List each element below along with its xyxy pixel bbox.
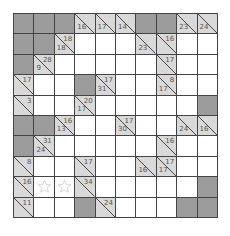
clue-cell: 2017 xyxy=(75,96,94,115)
down-sum: 30 xyxy=(118,126,127,133)
entry-cell[interactable] xyxy=(34,177,53,196)
entry-cell[interactable] xyxy=(55,198,74,217)
entry-cell[interactable] xyxy=(136,96,155,115)
entry-cell[interactable] xyxy=(177,75,196,94)
across-sum: 24 xyxy=(104,200,113,207)
down-sum: 24 xyxy=(200,24,209,31)
down-sum: 17 xyxy=(159,86,168,93)
entry-cell[interactable] xyxy=(136,136,155,155)
clue-cell: 1818 xyxy=(55,34,74,53)
entry-cell[interactable] xyxy=(116,96,135,115)
entry-cell[interactable] xyxy=(96,177,115,196)
entry-cell[interactable] xyxy=(55,96,74,115)
entry-cell[interactable] xyxy=(55,55,74,74)
entry-cell[interactable] xyxy=(34,157,53,176)
down-sum: 31 xyxy=(98,86,107,93)
entry-cell[interactable] xyxy=(198,136,217,155)
entry-cell[interactable] xyxy=(198,157,217,176)
across-sum: 8 xyxy=(170,77,174,84)
entry-cell[interactable] xyxy=(116,55,135,74)
entry-cell[interactable] xyxy=(116,75,135,94)
blocked-cell xyxy=(55,14,74,33)
clue-cell: 11 xyxy=(14,198,33,217)
across-sum: 34 xyxy=(84,179,93,186)
clue-cell: 16 xyxy=(75,14,94,33)
entry-cell[interactable] xyxy=(177,55,196,74)
across-sum: 18 xyxy=(63,36,72,43)
entry-cell[interactable] xyxy=(34,198,53,217)
blocked-cell xyxy=(177,198,196,217)
entry-cell[interactable] xyxy=(136,55,155,74)
entry-cell[interactable] xyxy=(96,34,115,53)
blocked-cell xyxy=(14,14,33,33)
clue-cell: 1730 xyxy=(116,116,135,135)
clue-cell: 14 xyxy=(116,14,135,33)
entry-cell[interactable] xyxy=(75,55,94,74)
blocked-cell xyxy=(14,136,33,155)
blocked-cell xyxy=(34,14,53,33)
entry-cell[interactable] xyxy=(198,55,217,74)
entry-cell[interactable] xyxy=(116,34,135,53)
entry-cell[interactable] xyxy=(55,177,74,196)
entry-cell[interactable] xyxy=(177,136,196,155)
entry-cell[interactable] xyxy=(177,157,196,176)
entry-cell[interactable] xyxy=(177,96,196,115)
blocked-cell xyxy=(14,116,33,135)
entry-cell[interactable] xyxy=(75,136,94,155)
across-sum: 11 xyxy=(22,200,31,207)
entry-cell[interactable] xyxy=(136,198,155,217)
entry-cell[interactable] xyxy=(116,136,135,155)
entry-cell[interactable] xyxy=(116,177,135,196)
clue-cell: 1613 xyxy=(55,116,74,135)
entry-cell[interactable] xyxy=(96,136,115,155)
entry-cell[interactable] xyxy=(96,157,115,176)
entry-cell[interactable] xyxy=(96,55,115,74)
entry-cell[interactable] xyxy=(157,177,176,196)
clue-cell: 16 xyxy=(14,177,33,196)
clue-cell: 24 xyxy=(177,116,196,135)
blocked-cell xyxy=(34,34,53,53)
entry-cell[interactable] xyxy=(136,75,155,94)
entry-cell[interactable] xyxy=(96,116,115,135)
across-sum: 16 xyxy=(165,138,174,145)
entry-cell[interactable] xyxy=(157,198,176,217)
across-sum: 17 xyxy=(124,118,133,125)
entry-cell[interactable] xyxy=(55,136,74,155)
across-sum: 16 xyxy=(63,118,72,125)
entry-cell[interactable] xyxy=(136,116,155,135)
entry-cell[interactable] xyxy=(55,157,74,176)
across-sum: 17 xyxy=(22,77,31,84)
blocked-cell xyxy=(34,116,53,135)
entry-cell[interactable] xyxy=(177,177,196,196)
entry-cell[interactable] xyxy=(157,116,176,135)
entry-cell[interactable] xyxy=(116,198,135,217)
entry-cell[interactable] xyxy=(136,177,155,196)
entry-cell[interactable] xyxy=(198,34,217,53)
entry-cell[interactable] xyxy=(177,34,196,53)
kakuro-board: 1617142324181823162891717173181732017161… xyxy=(13,13,218,218)
blocked-cell xyxy=(136,14,155,33)
clue-cell: 3 xyxy=(14,96,33,115)
clue-cell: 17 xyxy=(14,75,33,94)
clue-cell: 23 xyxy=(177,14,196,33)
entry-cell[interactable] xyxy=(34,96,53,115)
entry-cell[interactable] xyxy=(116,157,135,176)
entry-cell[interactable] xyxy=(157,96,176,115)
clue-cell: 16 xyxy=(198,116,217,135)
down-sum: 16 xyxy=(77,24,86,31)
down-sum: 17 xyxy=(159,167,168,174)
blocked-cell xyxy=(14,34,33,53)
entry-cell[interactable] xyxy=(198,75,217,94)
entry-cell[interactable] xyxy=(75,34,94,53)
across-sum: 3 xyxy=(27,98,31,105)
down-sum: 17 xyxy=(98,24,107,31)
clue-cell: 16 xyxy=(136,157,155,176)
across-sum: 17 xyxy=(104,77,113,84)
entry-cell[interactable] xyxy=(55,75,74,94)
across-sum: 28 xyxy=(43,57,52,64)
star-icon xyxy=(55,177,74,196)
entry-cell[interactable] xyxy=(75,116,94,135)
entry-cell[interactable] xyxy=(96,96,115,115)
clue-cell: 17 xyxy=(157,55,176,74)
entry-cell[interactable] xyxy=(34,75,53,94)
